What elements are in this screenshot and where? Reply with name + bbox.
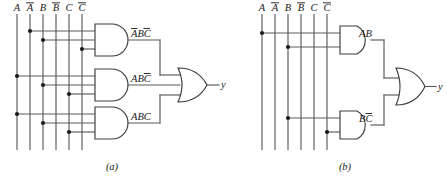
- or-gate-panel-b: y: [384, 68, 443, 105]
- logic-circuit-figure: A A B B C C ABC: [0, 0, 447, 179]
- term-label-b-cbar: BC: [359, 113, 373, 124]
- junction-b-g2-in2: [325, 130, 329, 134]
- junction-b-g2-in1: [286, 116, 290, 120]
- junction-g3-in3: [67, 130, 71, 134]
- junction-g3-in1: [15, 112, 19, 116]
- input-label-a: A: [13, 2, 21, 13]
- output-label-y-a: y: [220, 79, 226, 90]
- junction-g2-in1: [15, 74, 19, 78]
- panel-b-input-bus: [262, 14, 327, 150]
- junction-g3-in2: [41, 121, 45, 125]
- input-label-b-c: C: [310, 2, 318, 13]
- panel-b: A A B B C C AB: [258, 2, 443, 173]
- and-gate-shape-2: [95, 69, 128, 101]
- input-label-b-b-bar: B: [298, 2, 305, 13]
- input-label-b-a-bar: A: [271, 2, 279, 13]
- input-label-b: B: [40, 2, 47, 13]
- term-label-ab: AB: [358, 28, 372, 39]
- term-label-a-b-c: ABC: [130, 111, 152, 122]
- and-gate-1-panel-a: ABC: [28, 24, 160, 75]
- input-label-a-bar: A: [26, 2, 34, 13]
- input-label-b-bar: B: [53, 2, 60, 13]
- panel-a-input-bus: [17, 14, 82, 150]
- junction-g1-in2: [41, 38, 45, 42]
- junction-g2-in3: [67, 92, 71, 96]
- and-gate-3-panel-a: ABC: [15, 95, 160, 139]
- output-label-y-b: y: [437, 81, 443, 92]
- caption-panel-b: (b): [339, 161, 352, 173]
- and-gate-shape-1: [95, 24, 128, 56]
- junction-b-g1-in2: [286, 45, 290, 49]
- circuit-diagram-canvas: A A B B C C ABC: [0, 0, 447, 179]
- or-gate-shape-b: [396, 68, 425, 105]
- term-label-a-b-cbar: ABC: [130, 73, 152, 84]
- input-label-c: C: [65, 2, 73, 13]
- input-label-c-bar: C: [78, 2, 86, 13]
- and-gate-shape-3: [95, 107, 128, 139]
- input-label-b-c-bar: C: [323, 2, 331, 13]
- and-gate-2-panel-a: ABC: [15, 69, 180, 101]
- panel-a: A A B B C C ABC: [13, 2, 226, 173]
- junction-g1-in1: [28, 29, 32, 33]
- junction-g2-in2: [41, 83, 45, 87]
- caption-panel-a: (a): [106, 161, 119, 173]
- junction-b-g1-in1: [260, 31, 264, 35]
- panel-b-input-labels: A A B B C C: [258, 2, 332, 13]
- or-gate-shape-a: [178, 68, 207, 102]
- junction-g1-in3: [80, 47, 84, 51]
- and-gate-1-panel-b: AB: [260, 26, 384, 78]
- panel-a-input-labels: A A B B C C: [13, 2, 87, 13]
- input-label-b-b: B: [285, 2, 292, 13]
- input-label-b-a: A: [258, 2, 266, 13]
- term-label-abar-b-cbar: ABC: [130, 28, 152, 39]
